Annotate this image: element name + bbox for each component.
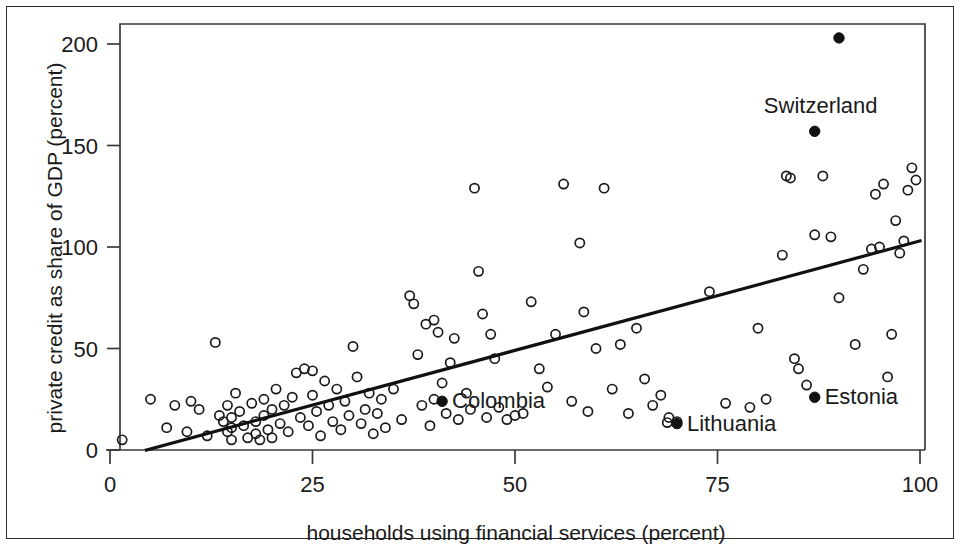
- data-point: [397, 415, 406, 424]
- data-point: [227, 413, 236, 422]
- data-point: [413, 350, 422, 359]
- data-point: [389, 385, 398, 394]
- y-tick-label: 200: [61, 32, 98, 57]
- data-point: [267, 405, 276, 414]
- data-point: [903, 186, 912, 195]
- data-point: [891, 216, 900, 225]
- data-point: [600, 184, 609, 193]
- data-point: [304, 421, 313, 430]
- data-point: [425, 421, 434, 430]
- data-point: [429, 315, 438, 324]
- data-point: [227, 435, 236, 444]
- data-point: [211, 338, 220, 347]
- data-point: [186, 397, 195, 406]
- point-label-switzerland: Switzerland: [764, 93, 878, 118]
- data-point: [616, 340, 625, 349]
- data-point: [879, 179, 888, 188]
- y-tick-label: 50: [74, 337, 98, 362]
- data-point: [182, 427, 191, 436]
- data-point: [721, 399, 730, 408]
- data-point: [883, 372, 892, 381]
- highlighted-point-colombia: [437, 396, 447, 406]
- data-point: [312, 407, 321, 416]
- data-point: [454, 415, 463, 424]
- data-point: [567, 397, 576, 406]
- data-point: [332, 385, 341, 394]
- data-point: [336, 425, 345, 434]
- data-point: [535, 364, 544, 373]
- data-point: [296, 413, 305, 422]
- data-point: [442, 409, 451, 418]
- data-point: [308, 391, 317, 400]
- data-point: [118, 435, 127, 444]
- point-label-estonia: Estonia: [825, 384, 899, 409]
- highlighted-points: SwitzerlandColombiaLithuaniaEstonia: [437, 33, 899, 436]
- data-point: [907, 163, 916, 172]
- data-point: [373, 409, 382, 418]
- regression-line: [146, 241, 920, 450]
- data-point: [223, 401, 232, 410]
- data-point: [632, 324, 641, 333]
- data-point: [818, 171, 827, 180]
- data-point: [911, 175, 920, 184]
- data-point: [450, 334, 459, 343]
- data-point: [895, 248, 904, 257]
- data-point: [170, 401, 179, 410]
- data-point: [640, 374, 649, 383]
- trend-line: [146, 241, 920, 450]
- data-point: [608, 385, 617, 394]
- data-point: [284, 427, 293, 436]
- data-point: [559, 179, 568, 188]
- y-tick-label: 150: [61, 134, 98, 159]
- data-point: [753, 324, 762, 333]
- data-point: [648, 401, 657, 410]
- highlighted-point-switzerland: [810, 126, 820, 136]
- data-point: [583, 407, 592, 416]
- data-point: [259, 395, 268, 404]
- data-point: [231, 389, 240, 398]
- data-point: [482, 413, 491, 422]
- data-point: [361, 405, 370, 414]
- y-tick-label: 100: [61, 235, 98, 260]
- data-point: [790, 354, 799, 363]
- data-point: [276, 419, 285, 428]
- highlighted-point: [834, 33, 844, 43]
- data-point: [352, 372, 361, 381]
- data-point: [344, 411, 353, 420]
- data-point: [887, 330, 896, 339]
- data-point: [470, 184, 479, 193]
- x-tick-label: 50: [503, 472, 527, 497]
- x-tick-label: 0: [104, 472, 116, 497]
- data-point: [247, 399, 256, 408]
- data-point: [762, 395, 771, 404]
- data-point: [810, 230, 819, 239]
- data-point: [834, 293, 843, 302]
- point-label-lithuania: Lithuania: [687, 411, 777, 436]
- data-point: [851, 340, 860, 349]
- point-label-colombia: Colombia: [452, 388, 546, 413]
- data-point: [288, 393, 297, 402]
- data-point: [575, 238, 584, 247]
- data-point: [705, 287, 714, 296]
- chart-figure: SwitzerlandColombiaLithuaniaEstonia 0501…: [0, 0, 960, 555]
- y-tick-label: 0: [86, 438, 98, 463]
- x-axis-title: households using financial services (per…: [306, 521, 725, 544]
- data-point: [438, 378, 447, 387]
- data-point: [320, 376, 329, 385]
- x-tick-label: 25: [300, 472, 324, 497]
- highlighted-point-estonia: [810, 392, 820, 402]
- data-point: [328, 417, 337, 426]
- data-point: [280, 401, 289, 410]
- data-point: [579, 307, 588, 316]
- data-point: [591, 344, 600, 353]
- data-point: [417, 401, 426, 410]
- data-point: [195, 405, 204, 414]
- data-point: [433, 328, 442, 337]
- data-point: [826, 232, 835, 241]
- data-point: [794, 364, 803, 373]
- data-point: [778, 251, 787, 260]
- data-point: [624, 409, 633, 418]
- y-axis-title: private credit as share of GDP (percent): [43, 63, 66, 434]
- data-point: [348, 342, 357, 351]
- data-point: [527, 297, 536, 306]
